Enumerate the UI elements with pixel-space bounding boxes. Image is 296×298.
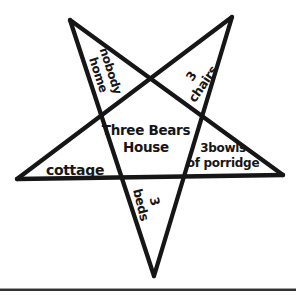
label-3-bowls-of-porridge: 3bowls of porridge (187, 141, 259, 170)
label-line: cottage (46, 163, 104, 178)
story-map-figure: nobody home 3 chairs Three Bears House c… (0, 0, 296, 298)
label-cottage: cottage (46, 163, 104, 178)
page-rule (0, 288, 296, 291)
label-line: 3bowls (187, 141, 259, 156)
label-line: Three Bears (102, 122, 190, 139)
label-three-bears-house: Three Bears House (102, 122, 190, 156)
label-line: of porridge (187, 155, 259, 170)
label-line: House (102, 139, 190, 156)
